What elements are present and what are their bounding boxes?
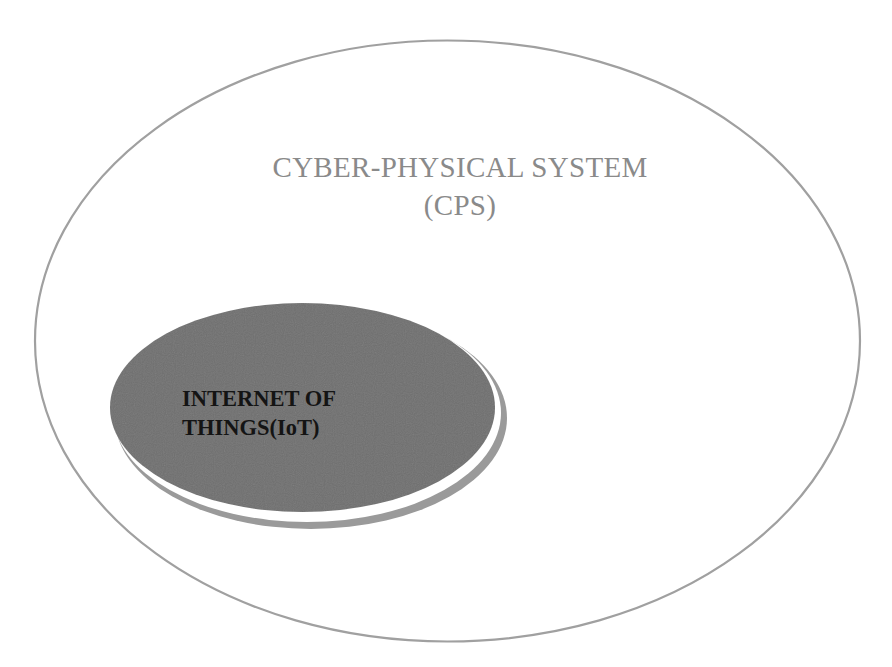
cps-iot-diagram — [0, 0, 892, 667]
cps-label-line-2: (CPS) — [180, 186, 740, 224]
iot-label-line-1: INTERNET OF — [182, 384, 442, 413]
iot-label-line-2: THINGS(IoT) — [182, 413, 442, 442]
iot-label: INTERNET OF THINGS(IoT) — [182, 384, 442, 442]
cps-label-line-1: CYBER-PHYSICAL SYSTEM — [180, 148, 740, 186]
cps-label: CYBER-PHYSICAL SYSTEM (CPS) — [180, 148, 740, 224]
